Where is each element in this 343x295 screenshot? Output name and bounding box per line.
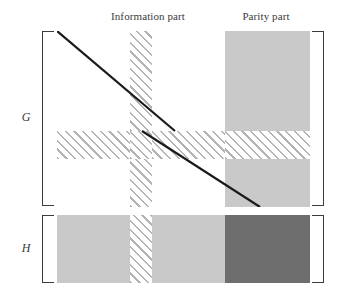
block-g-hatch-band-right xyxy=(152,131,225,159)
block-h-parity xyxy=(225,215,310,283)
block-h-hatch-column xyxy=(130,215,152,283)
block-g-parity-bottom xyxy=(225,159,310,207)
row-label-parity-check-matrix: H xyxy=(16,241,36,256)
block-g-info-right-bottom xyxy=(152,159,225,207)
caption-parity-part: Parity part xyxy=(222,10,310,22)
caption-information-part: Information part xyxy=(93,10,203,22)
block-g-info-left-top xyxy=(57,31,130,131)
block-g-hatch-column-top xyxy=(130,31,152,131)
block-g-info-left-bottom xyxy=(57,159,130,207)
block-g-hatch-band-left xyxy=(57,131,130,159)
block-g-hatch-band-center xyxy=(130,131,152,159)
bracket-right-g xyxy=(312,31,324,206)
row-label-generator-matrix: G xyxy=(16,110,36,125)
bracket-left-g xyxy=(42,31,54,206)
block-g-hatch-band-parity xyxy=(225,131,310,159)
block-h-info-right xyxy=(152,215,225,283)
bracket-left-h xyxy=(42,215,54,283)
bracket-right-h xyxy=(312,215,324,283)
block-g-parity-top xyxy=(225,31,310,131)
matrix-body xyxy=(57,31,310,283)
block-h-info-left xyxy=(57,215,130,283)
block-g-hatch-column-bottom xyxy=(130,159,152,207)
figure-root: Information part Parity part G H xyxy=(0,0,343,295)
block-g-info-right-top xyxy=(152,31,225,131)
